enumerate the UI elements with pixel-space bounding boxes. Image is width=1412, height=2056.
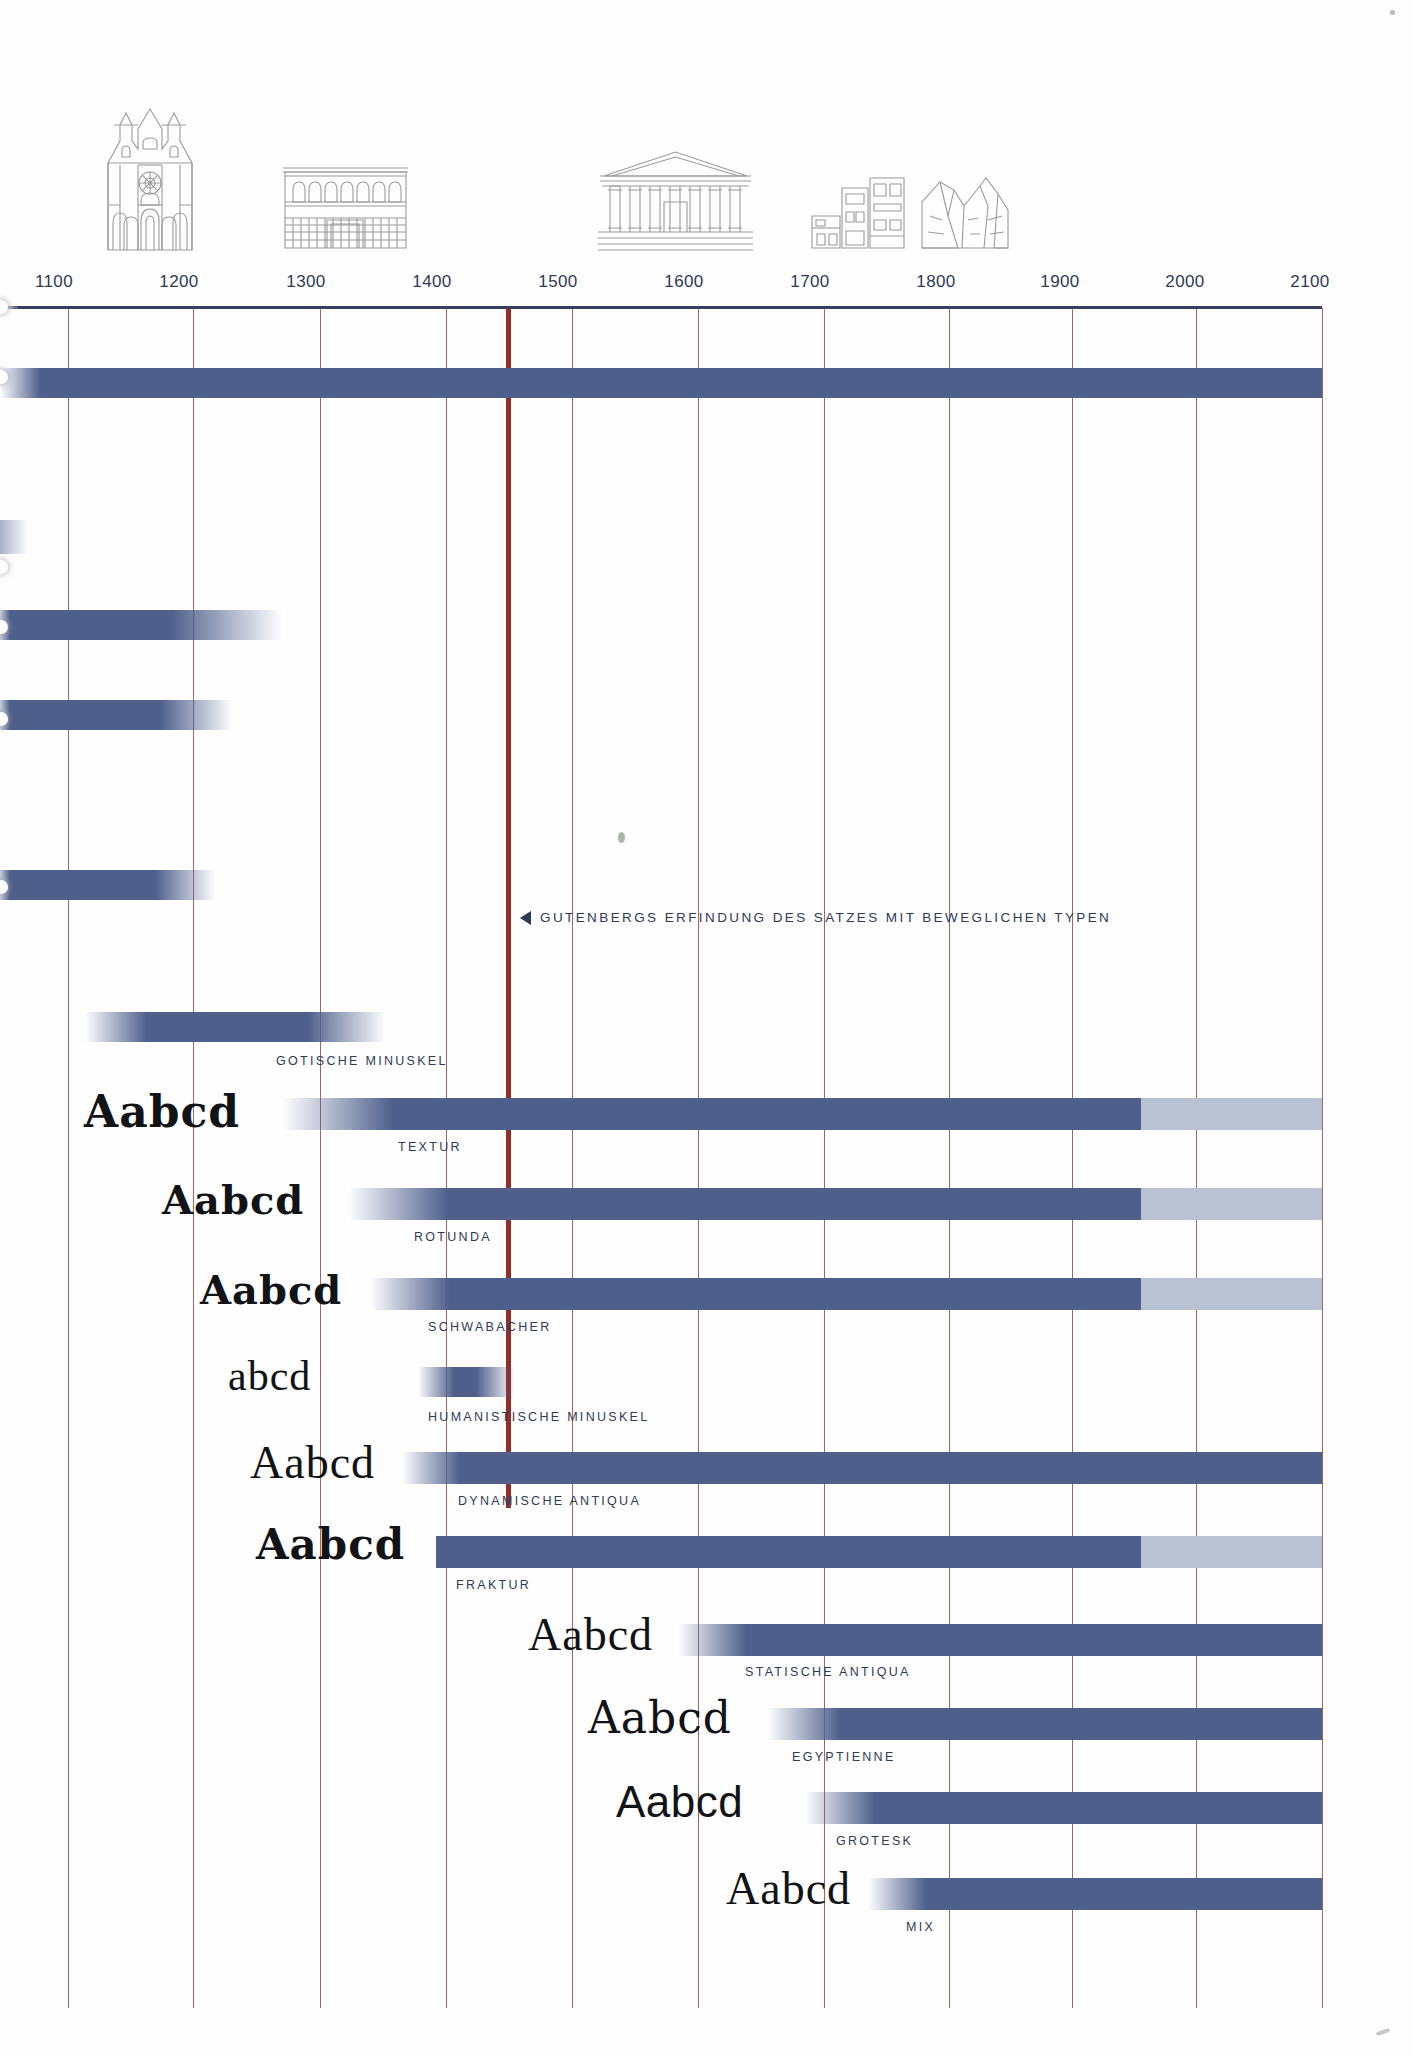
bar-fade-in <box>402 1452 460 1484</box>
bar-fraktur <box>436 1536 1322 1568</box>
bar-fade-in <box>85 1012 147 1042</box>
caption-schwabacher: SCHWABACHER <box>428 1320 551 1334</box>
bar-textur <box>283 1098 1322 1130</box>
specimen-statische-antiqua: Aabcd <box>528 1612 653 1658</box>
specimen-grotesk: Aabcd <box>616 1780 743 1824</box>
bar-fade-in <box>348 1188 448 1220</box>
bar-solid <box>10 700 160 730</box>
specimen-fraktur: Aabcd <box>256 1524 405 1566</box>
caption-fraktur: FRAKTUR <box>456 1578 531 1592</box>
bar-fade <box>0 520 28 554</box>
bar-solid <box>10 610 170 640</box>
bar-solid <box>840 1708 1322 1740</box>
bar-row-1 <box>0 520 28 554</box>
bar-solid <box>448 1188 1141 1220</box>
specimen-mix: Aabcd <box>726 1866 851 1912</box>
bar-mix <box>868 1878 1322 1910</box>
bar-fade-in <box>768 1708 840 1740</box>
bar-solid <box>875 1792 1322 1824</box>
bar-fade-in <box>678 1624 746 1656</box>
caption-rotunda: ROTUNDA <box>414 1230 492 1244</box>
bar-dynamische-antiqua <box>402 1452 1322 1484</box>
bar-solid <box>147 1012 307 1042</box>
bar-light-tail <box>1141 1536 1322 1568</box>
bar-solid <box>926 1878 1322 1910</box>
bar-fade-in <box>370 1278 450 1310</box>
bar-fade-out <box>170 610 282 640</box>
bar-row-3 <box>0 700 232 730</box>
bar-solid <box>393 1098 1141 1130</box>
caption-grotesk: GROTESK <box>836 1834 913 1848</box>
bar-rotunda <box>348 1188 1322 1220</box>
bar-light-tail <box>1141 1188 1322 1220</box>
caption-statische-antiqua: STATISCHE ANTIQUA <box>745 1665 911 1679</box>
bar-fade-out <box>160 700 232 730</box>
bar-statische-antiqua <box>678 1624 1322 1656</box>
bar-solid <box>40 368 1322 398</box>
bar-schwabacher <box>370 1278 1322 1310</box>
bar-fade-out <box>476 1367 515 1397</box>
bar-solid <box>450 1278 1141 1310</box>
bar-solid <box>10 870 155 900</box>
specimen-humanistische-minuskel: abcd <box>228 1355 311 1397</box>
caption-gotische-minuskel: GOTISCHE MINUSKEL <box>276 1054 448 1068</box>
specimen-schwabacher: Aabcd <box>200 1270 342 1310</box>
specimen-rotunda: Aabcd <box>162 1180 304 1220</box>
caption-humanistische-minuskel: HUMANISTISCHE MINUSKEL <box>428 1410 649 1424</box>
bar-layer: GOTISCHE MINUSKEL Aabcd TEXTUR Aabcd ROT… <box>0 0 1412 2056</box>
bar-fade-in <box>868 1878 926 1910</box>
bar-egyptienne <box>768 1708 1322 1740</box>
bar-fade-out <box>155 870 215 900</box>
specimen-textur: Aabcd <box>84 1090 240 1134</box>
bar-solid <box>436 1536 1141 1568</box>
specimen-egyptienne: Aabcd <box>588 1696 732 1740</box>
bar-grotesk <box>805 1792 1322 1824</box>
bar-humanistische-minuskel <box>418 1367 515 1397</box>
bar-row-0 <box>0 368 1322 398</box>
page-speck <box>618 832 625 843</box>
bar-fade-in <box>283 1098 393 1130</box>
bar-fade-in <box>805 1792 875 1824</box>
timeline-infographic: 1100 1200 1300 1400 1500 1600 1700 1800 … <box>0 0 1412 2056</box>
bar-row-2 <box>0 610 282 640</box>
bar-gotische-minuskel <box>85 1012 385 1042</box>
page-speck <box>1390 10 1395 15</box>
bar-light-tail <box>1141 1098 1322 1130</box>
caption-dynamische-antiqua: DYNAMISCHE ANTIQUA <box>458 1494 641 1508</box>
bar-light-tail <box>1141 1278 1322 1310</box>
bar-solid <box>454 1367 476 1397</box>
bar-fade-in <box>418 1367 454 1397</box>
specimen-dynamische-antiqua: Aabcd <box>250 1440 375 1486</box>
bar-row-4 <box>0 870 215 900</box>
bar-solid <box>746 1624 1322 1656</box>
bar-solid <box>460 1452 1322 1484</box>
bar-fade-out <box>307 1012 385 1042</box>
caption-egyptienne: EGYPTIENNE <box>792 1750 896 1764</box>
caption-mix: MIX <box>906 1920 935 1934</box>
caption-textur: TEXTUR <box>398 1140 462 1154</box>
